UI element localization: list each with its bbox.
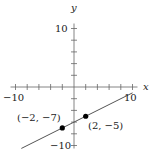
y-tick-label-min: −10 [50,140,71,151]
data-point-1 [60,125,65,130]
data-point-2 [83,114,88,119]
x-axis-label: x [143,81,149,92]
y-tick-label-max: 10 [55,23,68,34]
y-axis-label: y [70,2,77,13]
point-label-2: (2, −5) [88,120,123,131]
point-label-1: (−2, −7) [17,112,61,123]
x-tick-label-max: 10 [124,92,137,103]
line-chart: x y −10 10 10 −10 (−2, −7) (2, −5) [0,0,157,160]
x-tick-label-min: −10 [3,92,24,103]
